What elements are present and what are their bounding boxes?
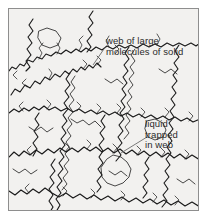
annotation-web-line1: web of large — [106, 36, 183, 47]
diagram-frame: web of large molecules of solid liquid t… — [8, 8, 199, 211]
leader-line-liquid — [121, 137, 147, 153]
figure-page: web of large molecules of solid liquid t… — [0, 0, 207, 219]
annotation-liquid-line1: liquid — [145, 119, 178, 130]
annotation-liquid-trapped: liquid trapped in web — [145, 119, 178, 151]
annotation-liquid-line3: in web — [145, 140, 178, 151]
annotation-web-line2: molecules of solid — [106, 47, 183, 58]
annotation-web-of-molecules: web of large molecules of solid — [106, 36, 183, 57]
